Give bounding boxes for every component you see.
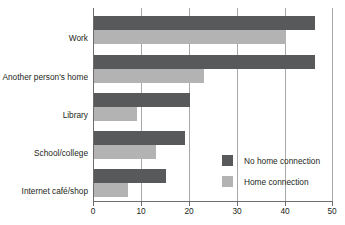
legend-item-home-connection: Home connection <box>222 171 320 192</box>
xtick-label-20: 20 <box>184 206 193 216</box>
bar-library-no-home-connection <box>94 93 190 107</box>
legend-label-home-connection: Home connection <box>244 177 309 187</box>
legend-item-no-home-connection: No home connection <box>222 150 320 171</box>
legend-swatch-icon-no-home-connection <box>222 155 233 166</box>
category-label-school-college: School/college <box>34 148 88 158</box>
chart-legend: No home connection Home connection <box>222 150 320 192</box>
bar-chart-figure: Work Another person's home Library Schoo… <box>0 0 345 225</box>
xtick-label-10: 10 <box>136 206 145 216</box>
category-label-library: Library <box>63 110 88 120</box>
xtick-label-0: 0 <box>91 206 96 216</box>
category-label-work: Work <box>69 33 88 43</box>
bar-work-no-home-connection <box>94 16 315 30</box>
bar-another-persons-home-home-connection <box>94 69 204 83</box>
category-label-another-persons-home: Another person's home <box>2 72 88 82</box>
bar-internet-cafe-shop-home-connection <box>94 183 128 197</box>
category-label-internet-cafe-shop: Internet café/shop <box>22 186 88 196</box>
xtick-label-40: 40 <box>280 206 289 216</box>
bar-library-home-connection <box>94 107 137 121</box>
bar-another-persons-home-no-home-connection <box>94 55 315 69</box>
xtick-label-30: 30 <box>232 206 241 216</box>
bar-school-college-home-connection <box>94 145 156 159</box>
bar-internet-cafe-shop-no-home-connection <box>94 169 166 183</box>
gridline-50 <box>332 8 333 202</box>
bar-work-home-connection <box>94 30 286 44</box>
bar-school-college-no-home-connection <box>94 131 185 145</box>
x-axis-line <box>93 201 333 202</box>
xtick-label-50: 50 <box>327 206 336 216</box>
legend-swatch-icon-home-connection <box>222 176 233 187</box>
legend-label-no-home-connection: No home connection <box>244 156 320 166</box>
category-axis-labels: Work Another person's home Library Schoo… <box>0 8 88 202</box>
